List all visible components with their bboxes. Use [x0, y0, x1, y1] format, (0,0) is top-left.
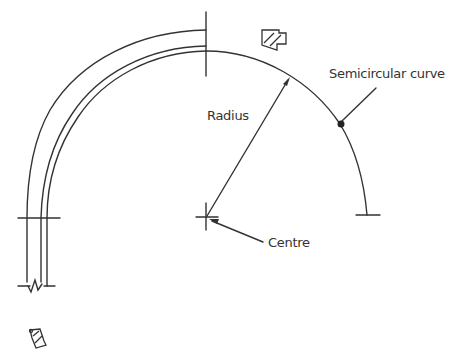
diagram-canvas — [0, 0, 467, 352]
curve-point-dot — [338, 121, 345, 128]
hatched-block-symbol-icon — [262, 30, 286, 50]
radius-label: Radius — [207, 108, 249, 123]
semicircular-curve-label: Semicircular curve — [329, 66, 445, 81]
centre-leader — [212, 221, 263, 242]
radius-arrowhead-icon — [283, 77, 290, 86]
curve-leader — [342, 88, 376, 121]
centre-label: Centre — [268, 235, 310, 250]
pipe-inner-arc-2 — [47, 51, 206, 286]
radius-line — [207, 80, 288, 216]
pipe-outer-arc — [27, 30, 206, 282]
pipe-inner-arc-1 — [41, 46, 206, 282]
hatched-wedge-symbol-icon — [30, 329, 47, 348]
